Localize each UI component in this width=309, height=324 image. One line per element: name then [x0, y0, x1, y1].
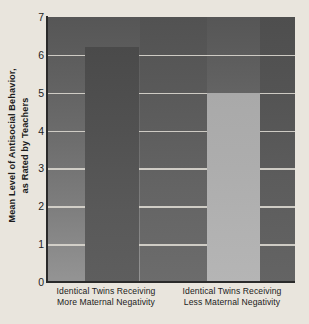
- y-axis-tick-6: 6: [30, 50, 44, 60]
- plot-background-mid-panel: [140, 17, 207, 282]
- y-axis-line: [46, 16, 48, 283]
- x-axis-label-group-1: Identical Twins Receiving Less Maternal …: [168, 286, 296, 309]
- y-axis-tick-3: 3: [30, 163, 44, 173]
- y-axis-tick-5: 5: [30, 88, 44, 98]
- x-axis-label-1-line-2: Less Maternal Negativity: [168, 297, 296, 308]
- plot-area: [48, 17, 295, 282]
- plot-background-right-panel: [260, 17, 295, 282]
- y-axis-tick-7: 7: [30, 12, 44, 22]
- y-axis-title-line-1: Mean Level of Antisocial Behavior,: [6, 68, 19, 222]
- x-axis-label-1-line-1: Identical Twins Receiving: [168, 286, 296, 297]
- y-axis-tick-1: 1: [30, 239, 44, 249]
- bar-1: [207, 93, 260, 282]
- bar-0: [85, 47, 139, 282]
- x-axis-label-0-line-2: More Maternal Negativity: [42, 297, 170, 308]
- x-axis-line: [46, 281, 295, 283]
- y-axis-tick-labels: 01234567: [26, 17, 44, 282]
- y-axis-tick-4: 4: [30, 126, 44, 136]
- x-axis-tick-labels: Identical Twins Receiving More Maternal …: [48, 286, 295, 320]
- x-axis-label-group-0: Identical Twins Receiving More Maternal …: [42, 286, 170, 309]
- bar-chart-figure: Mean Level of Antisocial Behavior, as Ra…: [0, 0, 309, 324]
- y-axis-tick-2: 2: [30, 201, 44, 211]
- x-axis-label-0-line-1: Identical Twins Receiving: [42, 286, 170, 297]
